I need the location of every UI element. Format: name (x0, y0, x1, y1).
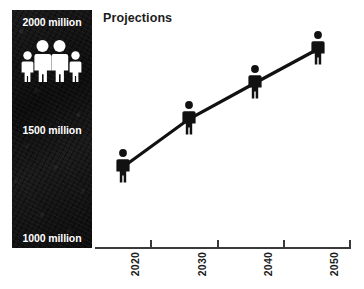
data-point-2040 (248, 65, 261, 98)
y-axis-label-1000-million: 1000 million (12, 232, 92, 244)
trend-line (123, 49, 318, 167)
x-tick-2050 (349, 240, 351, 247)
y-axis-legend-panel: 2000 million 1500 mi (12, 10, 92, 248)
y-axis-label-2000-million: 2000 million (12, 16, 92, 28)
x-tick-2040 (283, 240, 285, 247)
x-tick-2020 (150, 240, 152, 247)
x-axis-label-2020: 2020 (129, 252, 141, 276)
x-axis-line (95, 247, 351, 249)
population-projection-chart: 2000 million 1500 mi (0, 0, 364, 289)
x-tick-2030 (217, 240, 219, 247)
y-axis-label-1500-million: 1500 million (12, 124, 92, 136)
x-axis-label-2040: 2040 (262, 252, 274, 276)
family-group-pictogram (19, 38, 85, 84)
data-point-2030 (182, 101, 195, 134)
projection-series (95, 0, 364, 249)
x-axis-label-2030: 2030 (196, 252, 208, 276)
x-axis-label-2050: 2050 (328, 252, 340, 276)
plot-area: Projections (95, 0, 364, 249)
data-point-2050 (311, 31, 324, 64)
data-point-2020 (116, 149, 129, 182)
